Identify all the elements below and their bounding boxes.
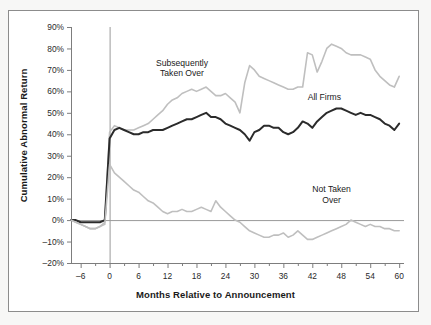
y-tick-label: 80%: [47, 44, 64, 54]
x-tick-label: 60: [395, 271, 405, 281]
x-tick-label: 24: [221, 271, 231, 281]
chart-frame: –20%–10%0%10%20%30%40%50%60%70%80%90%–60…: [8, 10, 419, 312]
chart-canvas: –20%–10%0%10%20%30%40%50%60%70%80%90%–60…: [9, 11, 418, 311]
x-tick-label: 36: [279, 271, 289, 281]
series-line-all-firms: [71, 109, 399, 223]
y-tick-label: 60%: [47, 86, 64, 96]
figure-background: –20%–10%0%10%20%30%40%50%60%70%80%90%–60…: [0, 0, 431, 325]
y-tick-label: 50%: [47, 108, 64, 118]
x-tick-label: 54: [366, 271, 376, 281]
y-tick-label: 30%: [47, 151, 64, 161]
x-tick-label: 18: [192, 271, 202, 281]
y-tick-label: –20%: [43, 258, 65, 268]
x-tick-label: 48: [337, 271, 347, 281]
not-taken-over-label: Not TakenOver: [312, 184, 351, 205]
y-tick-label: 0%: [52, 215, 65, 225]
y-tick-label: 10%: [47, 194, 64, 204]
x-tick-label: 12: [163, 271, 173, 281]
y-tick-label: 40%: [47, 129, 64, 139]
series-line-not-taken-over: [71, 164, 399, 239]
x-tick-label: 0: [107, 271, 112, 281]
all-firms-label: All Firms: [308, 92, 341, 102]
y-tick-label: 20%: [47, 172, 64, 182]
y-tick-label: –10%: [43, 237, 65, 247]
x-tick-label: –6: [76, 271, 86, 281]
y-tick-label: 90%: [47, 22, 64, 32]
series-line-subsequently-taken-over: [71, 44, 399, 229]
y-tick-label: 70%: [47, 65, 64, 75]
x-tick-label: 30: [250, 271, 260, 281]
x-tick-label: 6: [136, 271, 141, 281]
y-axis-title: Cumulative Abnormal Return: [18, 51, 29, 221]
x-axis-title: Months Relative to Announcement: [0, 289, 431, 300]
x-tick-label: 42: [308, 271, 318, 281]
subsequently-taken-over-label: SubsequentlyTaken Over: [156, 58, 209, 78]
